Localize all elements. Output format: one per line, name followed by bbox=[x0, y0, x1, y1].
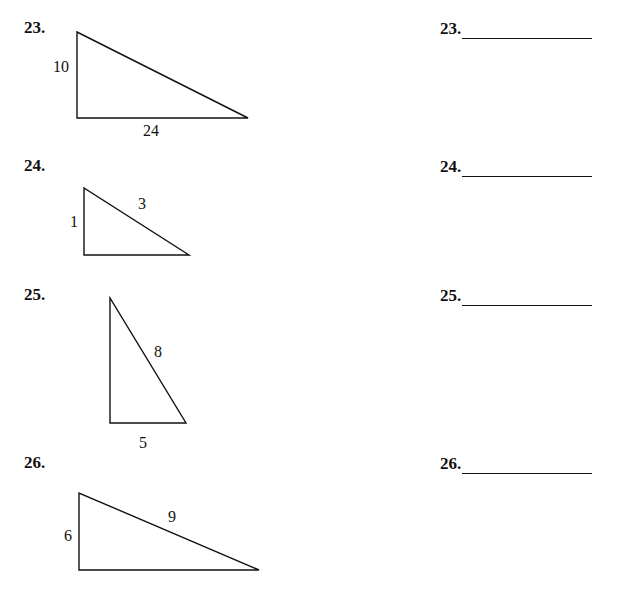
label-25-hypotenuse: 8 bbox=[154, 343, 162, 361]
label-26-vertical: 6 bbox=[64, 527, 72, 545]
answer-24: 24. bbox=[440, 157, 592, 177]
problem-number-25: 25. bbox=[24, 285, 45, 305]
problem-number-26: 26. bbox=[24, 453, 45, 473]
answer-label-26: 26. bbox=[440, 454, 461, 474]
answer-blank-26[interactable] bbox=[462, 459, 592, 474]
triangle-23 bbox=[77, 32, 248, 118]
problem-number-24: 24. bbox=[24, 156, 45, 176]
answer-label-24: 24. bbox=[440, 157, 461, 177]
label-24-vertical: 1 bbox=[70, 213, 78, 231]
answer-23: 23. bbox=[440, 19, 592, 39]
answer-blank-25[interactable] bbox=[462, 291, 592, 306]
triangle-25 bbox=[110, 298, 186, 423]
answer-blank-24[interactable] bbox=[462, 162, 592, 177]
label-23-horizontal: 24 bbox=[143, 122, 159, 140]
triangle-24 bbox=[84, 188, 189, 255]
label-23-vertical: 10 bbox=[53, 58, 69, 76]
triangle-26 bbox=[79, 493, 259, 570]
label-26-hypotenuse: 9 bbox=[168, 508, 176, 526]
label-24-hypotenuse: 3 bbox=[138, 195, 146, 213]
answer-blank-23[interactable] bbox=[462, 24, 592, 39]
problem-number-23: 23. bbox=[24, 18, 45, 38]
label-25-horizontal: 5 bbox=[139, 434, 147, 452]
answer-26: 26. bbox=[440, 454, 592, 474]
answer-label-23: 23. bbox=[440, 19, 461, 39]
answer-25: 25. bbox=[440, 286, 592, 306]
answer-label-25: 25. bbox=[440, 286, 461, 306]
